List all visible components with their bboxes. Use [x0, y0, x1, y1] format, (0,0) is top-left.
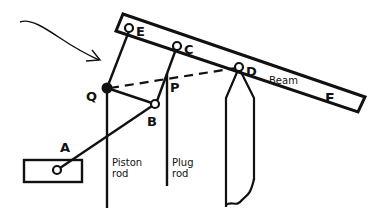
label-P: P — [170, 80, 180, 95]
beam-support-post — [226, 70, 254, 207]
label-E: E — [136, 24, 145, 39]
linkage-diagram: E C D Beam F Q P B A Piston rod Plug rod — [0, 0, 386, 220]
label-piston-rod-line1: Piston — [112, 157, 142, 168]
label-beam: Beam — [269, 75, 298, 86]
pivot-B — [151, 100, 159, 108]
label-A: A — [60, 140, 70, 155]
pivot-Q — [102, 83, 113, 94]
pivot-A — [53, 166, 61, 174]
label-plug-rod-line2: rod — [172, 168, 188, 179]
label-Q: Q — [86, 89, 97, 104]
label-B: B — [147, 114, 157, 129]
link-E-Q — [107, 31, 129, 88]
label-plug-rod-line1: Plug — [172, 157, 194, 168]
label-piston-rod-line2: rod — [112, 168, 128, 179]
pivot-D — [235, 63, 243, 71]
label-D: D — [246, 64, 257, 79]
label-C: C — [184, 42, 194, 57]
link-Q-B — [107, 88, 155, 104]
label-F: F — [325, 90, 335, 106]
pivot-C — [173, 42, 181, 50]
pivot-E — [125, 24, 133, 32]
pointer-arrow — [20, 21, 100, 61]
